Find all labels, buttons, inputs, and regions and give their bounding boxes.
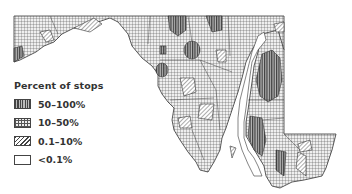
- legend-title: Percent of stops: [14, 80, 104, 91]
- legend-label: <0.1%: [38, 154, 72, 165]
- legend-label: 10–50%: [38, 117, 79, 128]
- grid-swatch-icon: [14, 118, 31, 128]
- state-eastern-shore: [246, 30, 336, 188]
- legend-label: 0.1–10%: [38, 136, 82, 147]
- map-legend: Percent of stops 50–100% 10–50% 0.1–10% …: [14, 80, 104, 170]
- diagonal-hatch-swatch-icon: [14, 136, 31, 146]
- blank-swatch-icon: [14, 155, 31, 165]
- legend-item-10-50: 10–50%: [14, 115, 104, 131]
- legend-item-below-0-1: <0.1%: [14, 152, 104, 168]
- vertical-lines-swatch-icon: [14, 99, 31, 109]
- legend-label: 50–100%: [38, 99, 85, 110]
- legend-item-50-100: 50–100%: [14, 96, 104, 112]
- legend-item-0-1-10: 0.1–10%: [14, 133, 104, 149]
